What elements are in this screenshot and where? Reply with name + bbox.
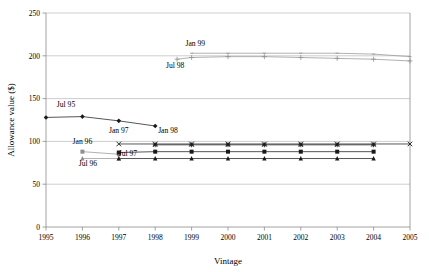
chart-container: Jul 95Jan 96Jul 96Jan 97Jul 97Jan 98Jul … <box>0 0 429 272</box>
y-tick-label: 250 <box>29 9 41 18</box>
x-tick-label: 2003 <box>330 233 345 242</box>
y-tick-label: 100 <box>29 137 41 146</box>
series-label: Jan 96 <box>73 137 93 146</box>
y-tick-label: 0 <box>36 223 40 232</box>
y-tick-label: 150 <box>29 94 41 103</box>
y-axis-title: Allowance value ($) <box>6 83 16 156</box>
x-tick-label: 1998 <box>148 233 163 242</box>
x-tick-label: 1996 <box>75 233 90 242</box>
chart-background <box>0 0 429 272</box>
series-label: Jan 99 <box>185 39 205 48</box>
y-tick-label: 200 <box>29 52 41 61</box>
x-tick-label: 2001 <box>257 233 272 242</box>
x-tick-label: 1999 <box>184 233 199 242</box>
x-tick-label: 1997 <box>111 233 126 242</box>
series-label: Jul 97 <box>119 149 138 158</box>
x-tick-label: 1995 <box>39 233 54 242</box>
x-tick-label: 2004 <box>366 233 381 242</box>
x-tick-label: 2002 <box>293 233 308 242</box>
series-label: Jan 98 <box>158 126 178 135</box>
series-label: Jul 98 <box>166 61 185 70</box>
x-axis-title: Vintage <box>214 256 242 266</box>
series-label: Jan 97 <box>109 126 129 135</box>
series-label: Jul 96 <box>79 159 98 168</box>
series-label: Jul 95 <box>57 100 76 109</box>
x-tick-label: 2000 <box>221 233 236 242</box>
y-tick-label: 50 <box>33 180 41 189</box>
allowance-value-line-chart: Jul 95Jan 96Jul 96Jan 97Jul 97Jan 98Jul … <box>0 0 429 272</box>
x-tick-label: 2005 <box>403 233 418 242</box>
